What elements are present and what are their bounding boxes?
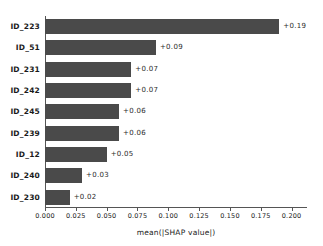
- x-tick-mark: [230, 208, 231, 211]
- bar-row: ID_231+0.07: [45, 59, 307, 80]
- bar-value-label: +0.07: [135, 62, 158, 77]
- bar: [45, 40, 156, 55]
- x-axis-label: mean(|SHAP value|): [45, 228, 307, 237]
- x-tick-mark: [199, 208, 200, 211]
- bar: [45, 190, 70, 205]
- x-tick-label: 0.200: [282, 212, 302, 220]
- x-tick-label: 0.175: [251, 212, 271, 220]
- bar-row: ID_51+0.09: [45, 37, 307, 58]
- bar-value-label: +0.19: [283, 19, 306, 34]
- x-tick-label: 0.150: [220, 212, 240, 220]
- bar: [45, 126, 119, 141]
- bar-row: ID_239+0.06: [45, 123, 307, 144]
- bar-value-label: +0.02: [74, 190, 97, 205]
- y-tick-label: ID_223: [10, 19, 40, 34]
- bar-value-label: +0.03: [86, 168, 109, 183]
- x-tick-mark: [261, 208, 262, 211]
- bar-row: ID_230+0.02: [45, 187, 307, 208]
- x-tick-mark: [45, 208, 46, 211]
- y-tick-label: ID_230: [10, 190, 40, 205]
- bar-row: ID_223+0.19: [45, 16, 307, 37]
- x-tick-mark: [168, 208, 169, 211]
- bar: [45, 104, 119, 119]
- x-tick-label: 0.000: [35, 212, 55, 220]
- bar-row: ID_242+0.07: [45, 80, 307, 101]
- x-tick-label: 0.050: [97, 212, 117, 220]
- x-tick-label: 0.125: [189, 212, 209, 220]
- x-tick-label: 0.100: [158, 212, 178, 220]
- plot-area: ID_223+0.19ID_51+0.09ID_231+0.07ID_242+0…: [45, 16, 307, 208]
- bar-row: ID_240+0.03: [45, 165, 307, 186]
- bar: [45, 83, 131, 98]
- x-tick-mark: [76, 208, 77, 211]
- y-tick-label: ID_240: [10, 168, 40, 183]
- shap-bar-chart-figure: ID_223+0.19ID_51+0.09ID_231+0.07ID_242+0…: [0, 0, 323, 246]
- bar-row: ID_245+0.06: [45, 101, 307, 122]
- bar: [45, 62, 131, 77]
- bar-value-label: +0.09: [160, 40, 183, 55]
- x-tick-mark: [292, 208, 293, 211]
- bar: [45, 147, 107, 162]
- bar-value-label: +0.06: [123, 126, 146, 141]
- bar-value-label: +0.05: [111, 147, 134, 162]
- bar-value-label: +0.07: [135, 83, 158, 98]
- bar: [45, 19, 279, 34]
- x-tick-label: 0.025: [66, 212, 86, 220]
- y-tick-label: ID_242: [10, 83, 40, 98]
- bar-row: ID_12+0.05: [45, 144, 307, 165]
- y-tick-label: ID_12: [16, 147, 40, 162]
- x-tick-mark: [107, 208, 108, 211]
- bar: [45, 168, 82, 183]
- x-tick-mark: [137, 208, 138, 211]
- y-tick-label: ID_239: [10, 126, 40, 141]
- y-tick-label: ID_231: [10, 62, 40, 77]
- y-tick-label: ID_51: [16, 40, 40, 55]
- x-tick-label: 0.075: [128, 212, 148, 220]
- y-tick-label: ID_245: [10, 104, 40, 119]
- bar-value-label: +0.06: [123, 104, 146, 119]
